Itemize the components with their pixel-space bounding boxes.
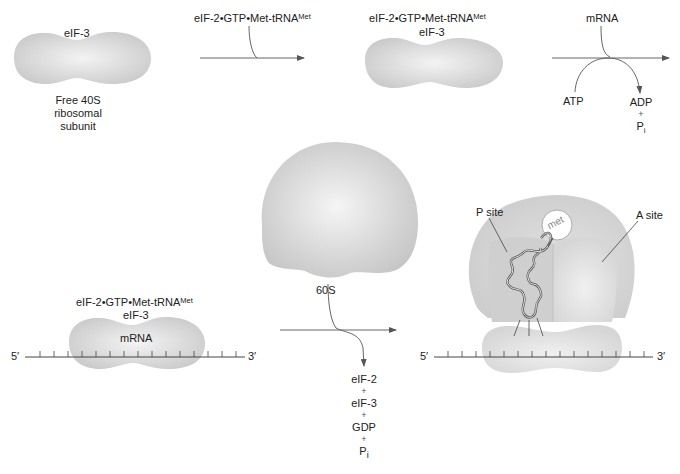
label-text: eIF-2•GTP•Met-tRNA xyxy=(369,12,473,24)
60s-label: 60S xyxy=(316,284,336,297)
label-text: P xyxy=(636,120,643,132)
plus-sign: + xyxy=(627,109,655,119)
pi-label: Pi xyxy=(627,119,655,138)
pi-released: Pi xyxy=(344,444,384,462)
released-factors: eIF-2 + eIF-3 + GDP + Pi xyxy=(344,372,384,462)
a-site-label: A site xyxy=(636,209,663,222)
arrow1-input-label: eIF-2•GTP•Met-tRNAMet xyxy=(194,12,311,25)
diagram-canvas xyxy=(0,0,680,474)
caption-line-1: Free 40S xyxy=(53,94,103,107)
label-text: eIF-2•GTP•Met-tRNA xyxy=(194,12,298,24)
three-prime-left: 3′ xyxy=(248,350,256,363)
48s-label-line2: eIF-3 xyxy=(123,309,149,322)
label-text: eIF-2•GTP•Met-tRNA xyxy=(76,296,180,308)
43s-label-line1: eIF-2•GTP•Met-tRNAMet xyxy=(369,12,486,25)
caption-line-3: subunit xyxy=(53,120,103,133)
three-prime-right: 3′ xyxy=(657,350,665,363)
60s-subunit-shape xyxy=(262,142,418,278)
mrna-input-label: mRNA xyxy=(586,12,618,25)
eif2-released: eIF-2 xyxy=(344,372,384,386)
label-sub: i xyxy=(367,450,369,460)
atp-label: ATP xyxy=(563,95,584,108)
48s-mrna-label: mRNA xyxy=(120,332,152,345)
43s-label-line2: eIF-3 xyxy=(419,26,445,39)
free-40s-caption: Free 40S ribosomal subunit xyxy=(53,94,103,133)
adp-label: ADP xyxy=(627,95,655,109)
label-sup: Met xyxy=(473,12,486,21)
48s-label-line1: eIF-2•GTP•Met-tRNAMet xyxy=(76,296,193,309)
arrow-1 xyxy=(200,26,304,58)
label-sup: Met xyxy=(298,12,311,21)
arrow-3 xyxy=(280,284,396,366)
plus-sign: + xyxy=(344,386,384,396)
label-sub: i xyxy=(644,126,646,135)
43s-complex-shape xyxy=(365,38,503,88)
gdp-released: GDP xyxy=(344,420,384,434)
arrow2-products: ADP + Pi xyxy=(627,95,655,138)
label-text: P xyxy=(359,445,366,457)
eif3-label-free40s: eIF-3 xyxy=(64,27,90,40)
caption-line-2: ribosomal xyxy=(53,107,103,120)
eif3-released: eIF-3 xyxy=(344,396,384,410)
five-prime-right: 5′ xyxy=(420,350,428,363)
plus-sign: + xyxy=(344,410,384,420)
label-sup: Met xyxy=(180,296,193,305)
arrow-2 xyxy=(552,26,669,93)
p-site-label: P site xyxy=(476,206,503,219)
five-prime-left: 5′ xyxy=(11,350,19,363)
plus-sign: + xyxy=(344,434,384,444)
